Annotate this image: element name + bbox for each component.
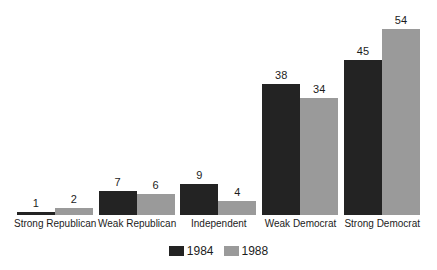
bar-1984 <box>180 184 218 215</box>
bar-1984 <box>262 84 300 215</box>
bar-value-label: 9 <box>196 170 202 184</box>
bar-1984 <box>344 60 382 215</box>
bar-group-independent: 9 4 <box>178 8 260 215</box>
category-label-strong-democrat: Strong Democrat <box>341 217 423 233</box>
bars-row: 38 34 <box>259 8 341 215</box>
legend-swatch-icon <box>224 246 239 256</box>
bar-slot-1988: 2 <box>55 8 93 215</box>
bars-row: 7 6 <box>96 8 178 215</box>
bar-slot-1984: 7 <box>99 8 137 215</box>
bar-group-strong-democrat: 45 54 <box>341 8 423 215</box>
bar-value-label: 38 <box>275 70 288 84</box>
bar-value-label: 7 <box>115 177 121 191</box>
bar-slot-1984: 1 <box>17 8 55 215</box>
bars-row: 9 4 <box>178 8 260 215</box>
bar-slot-1988: 54 <box>382 8 420 215</box>
bar-value-label: 54 <box>395 15 408 29</box>
legend-entry-1984: 1984 <box>169 245 214 257</box>
bar-group-weak-democrat: 38 34 <box>259 8 341 215</box>
bar-1988 <box>382 29 420 216</box>
legend-label: 1984 <box>187 245 214 257</box>
category-axis: Strong Republican Weak Republican Indepe… <box>14 217 423 233</box>
bar-value-label: 45 <box>357 46 370 60</box>
bars-row: 45 54 <box>341 8 423 215</box>
bar-1988 <box>55 208 93 215</box>
bar-slot-1988: 6 <box>137 8 175 215</box>
bar-1984 <box>17 212 55 215</box>
bar-1988 <box>137 194 175 215</box>
bar-group-weak-republican: 7 6 <box>96 8 178 215</box>
bar-value-label: 34 <box>313 84 326 98</box>
bar-1984 <box>99 191 137 215</box>
bar-slot-1984: 9 <box>180 8 218 215</box>
category-label-independent: Independent <box>178 217 260 233</box>
category-label-strong-republican: Strong Republican <box>14 217 96 233</box>
bar-slot-1988: 4 <box>218 8 256 215</box>
bar-chart: 1 2 7 6 <box>0 0 437 270</box>
bar-slot-1988: 34 <box>300 8 338 215</box>
legend-swatch-icon <box>169 246 184 256</box>
bar-value-label: 4 <box>234 187 240 201</box>
bar-group-strong-republican: 1 2 <box>14 8 96 215</box>
bar-slot-1984: 38 <box>262 8 300 215</box>
bar-value-label: 6 <box>153 180 159 194</box>
category-label-weak-republican: Weak Republican <box>96 217 178 233</box>
plot-area: 1 2 7 6 <box>14 8 423 215</box>
bar-value-label: 1 <box>33 198 39 212</box>
legend-entry-1988: 1988 <box>224 245 269 257</box>
bar-1988 <box>218 201 256 215</box>
chart-legend: 1984 1988 <box>0 245 437 257</box>
bar-value-label: 2 <box>71 194 77 208</box>
bars-row: 1 2 <box>14 8 96 215</box>
category-label-weak-democrat: Weak Democrat <box>260 217 342 233</box>
bar-1988 <box>300 98 338 215</box>
legend-label: 1988 <box>242 245 269 257</box>
bar-slot-1984: 45 <box>344 8 382 215</box>
